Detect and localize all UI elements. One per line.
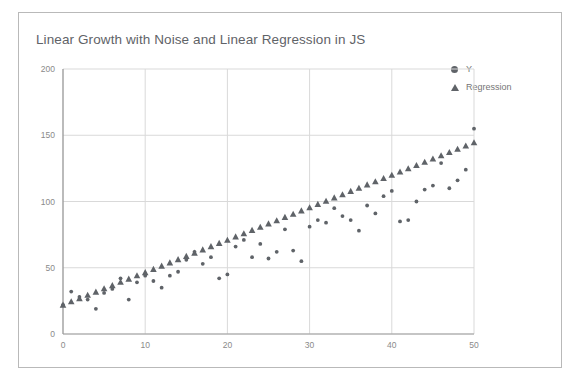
data-point-y [390,189,394,193]
data-point-regression [175,256,182,262]
data-point-regression [199,246,206,252]
grid-lines [63,69,474,334]
data-point-regression [413,162,420,168]
data-point-regression [125,276,132,282]
data-point-regression [471,139,478,145]
x-tick-label: 10 [140,340,150,350]
data-point-y [275,250,279,254]
data-point-y [464,168,468,172]
data-point-y [160,286,164,290]
data-point-regression [273,217,280,223]
data-point-y [226,272,230,276]
data-point-y [423,188,427,192]
data-point-regression [224,237,231,243]
data-point-regression [208,243,215,249]
data-point-regression [356,185,363,191]
data-point-regression [323,198,330,204]
data-point-regression [462,142,469,148]
data-point-regression [282,214,289,220]
data-point-regression [397,168,404,174]
x-tick-label: 50 [469,340,479,350]
data-point-regression [257,224,264,230]
data-point-regression [339,191,346,197]
data-point-regression [298,207,305,213]
data-point-regression [76,295,83,301]
data-point-y [69,290,73,294]
data-point-regression [364,181,371,187]
data-point-y [291,249,295,253]
data-point-y [382,194,386,198]
data-point-y [201,262,205,266]
y-tick-label: 150 [41,130,55,140]
data-point-y [365,204,369,208]
data-point-y [456,178,460,182]
chart-card: Linear Growth with Noise and Linear Regr… [18,12,562,368]
data-point-regression [372,178,379,184]
data-point-y [439,161,443,165]
data-point-regression [380,175,387,181]
data-point-y [472,127,476,131]
data-point-regression [430,155,437,161]
data-point-regression [109,282,116,288]
data-point-y [431,184,435,188]
data-point-y [308,225,312,229]
data-point-y [217,276,221,280]
data-point-y [349,218,353,222]
data-point-y [135,280,139,284]
data-point-regression [265,220,272,226]
data-point-regression [150,266,157,272]
data-point-regression [183,253,190,259]
x-tick-label: 20 [223,340,233,350]
data-point-regression [142,269,149,275]
data-point-y [398,219,402,223]
data-point-regression [241,230,248,236]
data-point-regression [454,146,461,152]
data-point-y [86,298,90,302]
data-point-regression [167,259,174,265]
data-point-y [250,255,254,259]
data-point-y [406,218,410,222]
data-point-y [152,279,156,283]
data-point-regression [191,250,198,256]
data-point-regression [117,279,124,285]
data-point-y [283,227,287,231]
data-point-regression [421,159,428,165]
data-point-regression [389,172,396,178]
data-point-y [415,200,419,204]
data-point-regression [347,188,354,194]
data-point-y [127,298,131,302]
tick-labels: 05010015020001020304050 [41,64,479,350]
data-point-y [447,186,451,190]
x-tick-label: 0 [61,340,66,350]
x-tick-label: 40 [387,340,397,350]
data-point-y [332,206,336,210]
data-point-regression [232,233,239,239]
data-point-regression [93,289,100,295]
series-y-points [61,127,476,311]
data-point-regression [68,298,75,304]
data-point-y [373,212,377,216]
data-point-regression [405,165,412,171]
y-tick-label: 0 [50,329,55,339]
data-point-y [267,257,271,261]
data-point-regression [60,302,67,308]
data-point-regression [158,263,165,269]
data-point-regression [331,194,338,200]
data-point-regression [249,227,256,233]
data-point-regression [290,211,297,217]
data-point-y [258,242,262,246]
data-point-regression [84,292,91,298]
data-point-regression [134,272,141,278]
data-point-y [324,221,328,225]
x-tick-label: 30 [305,340,315,350]
data-point-y [234,245,238,249]
data-point-y [168,274,172,278]
data-point-y [94,307,98,311]
data-point-regression [438,152,445,158]
data-point-regression [216,240,223,246]
data-point-regression [446,149,453,155]
data-point-y [341,214,345,218]
data-point-regression [306,204,313,210]
data-point-y [299,259,303,263]
plot-area: 05010015020001020304050 [19,13,563,369]
